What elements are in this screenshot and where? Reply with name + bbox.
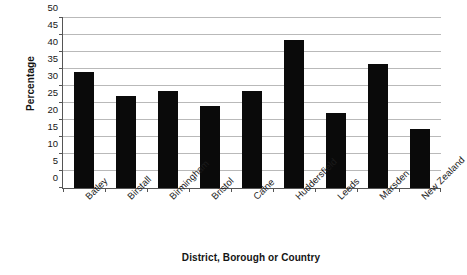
x-label-cell: Batley <box>62 192 104 248</box>
x-label-cell: Bristol <box>188 192 230 248</box>
bar-slot <box>189 18 231 188</box>
bar <box>368 64 387 188</box>
bar <box>116 96 135 188</box>
bar-slot <box>231 18 273 188</box>
bar-slot <box>147 18 189 188</box>
y-tick-label: 50 <box>47 2 58 13</box>
x-label-cell: New Zealand <box>398 192 440 248</box>
bar-slot <box>357 18 399 188</box>
bar-slot <box>63 18 105 188</box>
bar-slot <box>399 18 441 188</box>
x-axis-title: District, Borough or Country <box>62 252 440 263</box>
y-tick-label: 25 <box>47 87 58 98</box>
bar-slot <box>105 18 147 188</box>
y-tick-label: 0 <box>53 172 58 183</box>
bar <box>410 129 429 189</box>
bar <box>158 91 177 188</box>
bar <box>326 113 345 188</box>
bar <box>74 72 93 188</box>
y-tick-label: 40 <box>47 36 58 47</box>
x-tick-mark <box>440 188 441 192</box>
x-label-cell: Huddersfield <box>272 192 314 248</box>
bar-slot <box>273 18 315 188</box>
bar-series <box>63 18 441 188</box>
y-tick-label: 45 <box>47 19 58 30</box>
y-tick-label: 20 <box>47 104 58 115</box>
x-label-cell: Calne <box>230 192 272 248</box>
bar <box>284 40 303 188</box>
y-axis-title: Percentage <box>25 24 36 144</box>
bar <box>200 106 219 188</box>
x-axis-category-labels: BatleyBirstallBirminghamBristolCalneHudd… <box>62 192 440 248</box>
y-tick-label: 5 <box>53 155 58 166</box>
x-label-cell: Birmingham <box>146 192 188 248</box>
bar <box>242 91 261 188</box>
x-label-cell: Marsden <box>356 192 398 248</box>
y-tick-label: 35 <box>47 53 58 64</box>
plot-area: 05101520253035404550 <box>62 18 441 189</box>
y-tick-label: 10 <box>47 138 58 149</box>
x-label-cell: Leeds <box>314 192 356 248</box>
y-tick-label: 30 <box>47 70 58 81</box>
y-tick-label: 15 <box>47 121 58 132</box>
x-label-cell: Birstall <box>104 192 146 248</box>
